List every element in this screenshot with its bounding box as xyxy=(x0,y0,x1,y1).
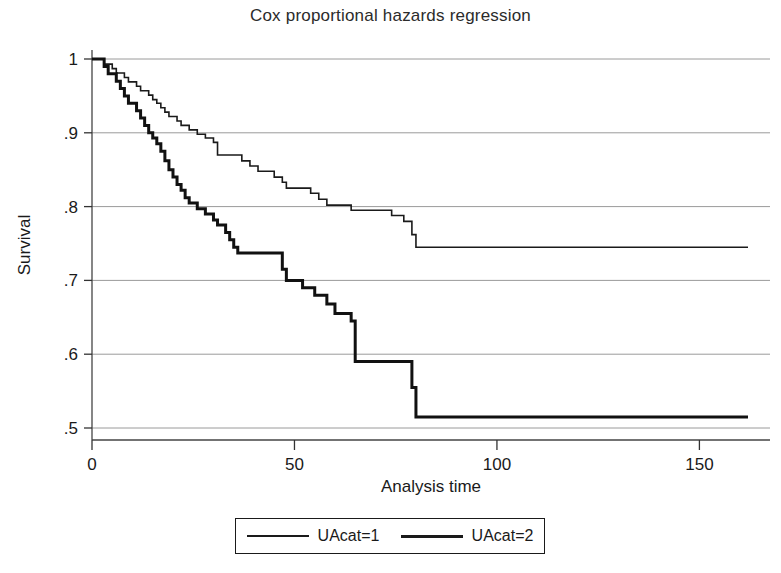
series-group xyxy=(92,59,748,417)
series-line-uacat-2 xyxy=(92,59,748,417)
y-tick-label: .6 xyxy=(64,345,78,364)
survival-plot: 050100150 .5.6.7.8.91 Analysis time Surv… xyxy=(0,0,781,573)
x-axis-label: Analysis time xyxy=(381,477,481,496)
x-tick-label: 0 xyxy=(87,455,96,474)
x-ticks-group: 050100150 xyxy=(87,440,713,474)
y-tick-label: .8 xyxy=(64,198,78,217)
x-tick-label: 150 xyxy=(685,455,713,474)
figure-container: Cox proportional hazards regression 0501… xyxy=(0,0,781,573)
legend-entry-uacat-1: UAcat=1 xyxy=(247,527,380,545)
y-tick-label: .5 xyxy=(64,419,78,438)
y-ticks-group: .5.6.7.8.91 xyxy=(64,50,92,438)
legend-label-2: UAcat=2 xyxy=(472,527,534,545)
y-tick-label: .9 xyxy=(64,124,78,143)
legend-line-swatch-2 xyxy=(401,535,463,538)
axes-group xyxy=(92,50,770,440)
y-tick-label: 1 xyxy=(69,50,78,69)
legend-label-1: UAcat=1 xyxy=(318,527,380,545)
y-axis-label: Survival xyxy=(15,215,34,275)
y-tick-label: .7 xyxy=(64,271,78,290)
legend-line-swatch-1 xyxy=(247,535,309,537)
chart-legend: UAcat=1 UAcat=2 xyxy=(235,518,545,554)
gridlines-group xyxy=(92,59,770,428)
x-tick-label: 50 xyxy=(285,455,304,474)
series-line-uacat-1 xyxy=(92,59,748,247)
x-tick-label: 100 xyxy=(483,455,511,474)
legend-entry-uacat-2: UAcat=2 xyxy=(401,527,534,545)
